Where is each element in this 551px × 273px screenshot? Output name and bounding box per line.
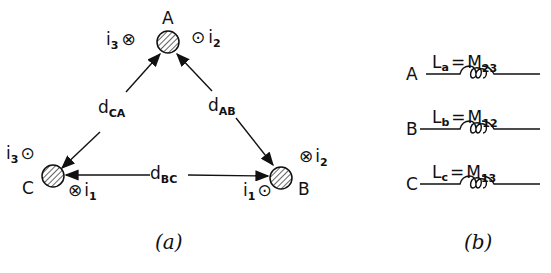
into-page-icon: ⊗	[299, 146, 313, 166]
out-of-page-icon: ⊙	[191, 27, 205, 47]
distance-ab-label: dAB	[208, 95, 236, 118]
distance-bc-label: dBC	[150, 163, 177, 186]
node-a-label: A	[162, 8, 174, 28]
current-b-bottom: i1⊙	[243, 180, 272, 203]
caption-a: (a)	[155, 230, 183, 254]
current-a-right: ⊙i2	[191, 27, 221, 50]
arrow-bc-to-b	[188, 175, 268, 176]
into-page-icon: ⊗	[68, 180, 82, 200]
inductance-b-label: Lb=M12	[432, 107, 498, 130]
out-of-page-icon: ⊙	[257, 180, 271, 200]
distance-ca-label: dCA	[98, 97, 126, 120]
conductor-c	[42, 165, 64, 187]
arrow-ca-to-a	[126, 54, 160, 92]
caption-b: (b)	[464, 230, 492, 254]
current-c-top: i3⊙	[6, 143, 35, 166]
inductance-a-label: La=M23	[432, 52, 497, 75]
arrow-ca-to-c	[62, 132, 100, 168]
diagram-canvas: A B C i3⊗ ⊙i2 ⊗i2 i1⊙ i3⊙ ⊗i1 dCA dAB dB…	[0, 0, 551, 273]
three-phase-conductor-diagram: A B C i3⊗ ⊙i2 ⊗i2 i1⊙ i3⊙ ⊗i1 dCA dAB dB…	[6, 8, 328, 254]
current-b-top: ⊗i2	[299, 146, 328, 169]
current-c-bottom: ⊗i1	[68, 180, 97, 203]
phase-b-label: B	[406, 119, 418, 139]
conductor-b	[270, 167, 292, 189]
node-b-label: B	[298, 179, 310, 199]
out-of-page-icon: ⊙	[20, 143, 34, 163]
phase-c-label: C	[406, 174, 418, 194]
current-a-left: i3⊗	[106, 29, 136, 52]
phase-a-label: A	[406, 64, 418, 84]
into-page-icon: ⊗	[121, 29, 135, 49]
equivalent-inductance-diagram: La=M23 A Lb=M12 B Lc=M13 C (b)	[406, 52, 540, 254]
arrow-ab-to-b	[236, 118, 273, 165]
conductor-a	[157, 31, 179, 53]
arrow-ab-to-a	[177, 54, 212, 91]
node-c-label: C	[22, 178, 34, 198]
